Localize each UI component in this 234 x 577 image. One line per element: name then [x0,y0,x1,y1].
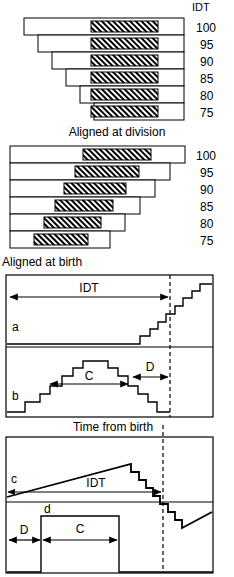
bar-row: 100 [24,18,216,35]
annotation-c: C [76,522,85,536]
column-header-idt: IDT [192,1,210,13]
bar-row: 85 [66,69,214,86]
annotation-idt: IDT [79,281,99,295]
bar-row: 80 [80,86,214,103]
row-value: 95 [200,166,214,180]
panel-traces-ab: IDT a b C D Time from birth [6,275,213,434]
row-value: 75 [200,234,214,248]
bar-row: 75 [91,103,214,120]
bar-row: 95 [38,35,214,52]
panel-traces-cd: c IDT d D C [6,425,213,573]
bar-row: 95 [10,163,214,180]
curve-label-a: a [12,320,19,334]
row-value: 95 [200,38,214,52]
panel-caption: Aligned at birth [2,255,82,269]
figure-root: IDT 100 95 90 85 80 [0,0,234,577]
row-value: 90 [200,55,214,69]
row-value: 80 [200,217,214,231]
bar-row: 90 [10,180,214,197]
panel-aligned-at-division: IDT 100 95 90 85 80 [24,1,216,139]
annotation-idt: IDT [86,476,106,490]
row-value: 75 [200,106,214,120]
bar-row: 100 [10,146,216,163]
annotation-d: D [146,360,155,374]
annotation-c: C [85,369,94,383]
bar-row: 85 [10,197,214,214]
row-value: 90 [200,183,214,197]
curve-label-c: c [11,472,17,486]
figure-svg: IDT 100 95 90 85 80 [0,0,234,577]
row-value: 85 [200,72,214,86]
curve-label-d: d [44,502,51,516]
row-value: 100 [196,21,216,35]
panel-caption: Aligned at division [69,125,166,139]
panel-caption: Time from birth [73,420,153,434]
panel-aligned-at-birth: 100 95 90 85 80 75 [2,146,216,269]
annotation-d: D [20,523,29,537]
bar-row: 90 [52,52,214,69]
row-value: 100 [196,149,216,163]
row-value: 85 [200,200,214,214]
bar-row: 80 [10,214,214,231]
bar-row: 75 [10,231,214,248]
curve-label-b: b [12,389,19,403]
row-value: 80 [200,89,214,103]
